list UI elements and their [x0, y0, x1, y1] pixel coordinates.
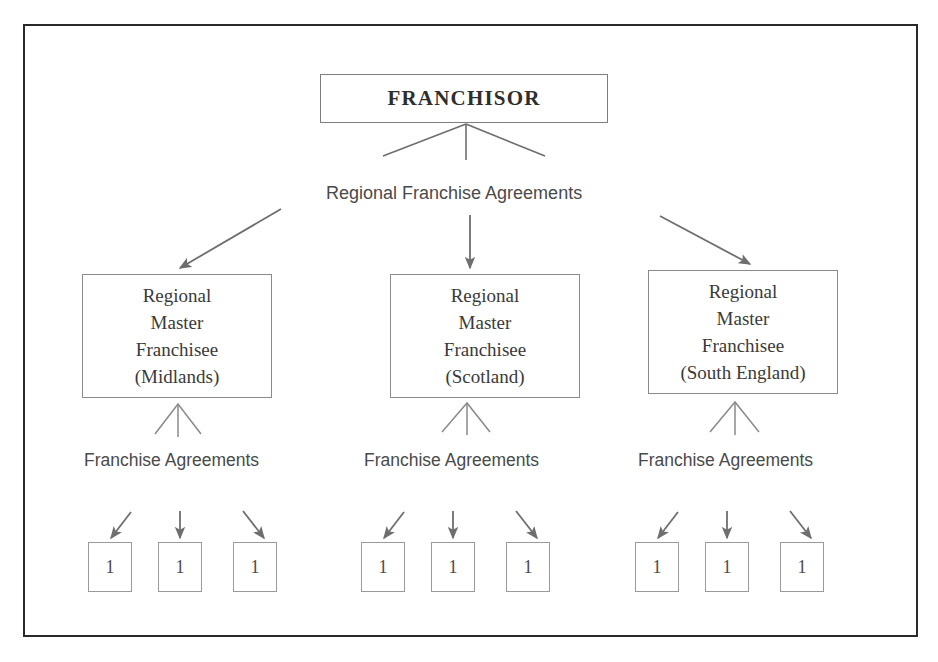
- node-unit-label: 1: [723, 557, 732, 578]
- node-unit-label: 1: [106, 557, 115, 578]
- node-unit-franchisee[interactable]: 1: [506, 542, 550, 592]
- node-regional-master-franchisee-midlands[interactable]: Regional Master Franchisee (Midlands): [82, 274, 272, 398]
- label-regional-franchise-agreements: Regional Franchise Agreements: [326, 183, 582, 204]
- node-unit-franchisee[interactable]: 1: [88, 542, 132, 592]
- node-unit-franchisee[interactable]: 1: [705, 542, 749, 592]
- node-regional-master-franchisee-scotland[interactable]: Regional Master Franchisee (Scotland): [390, 274, 580, 398]
- node-franchisor-label: FRANCHISOR: [387, 86, 540, 111]
- node-unit-label: 1: [251, 557, 260, 578]
- node-unit-franchisee[interactable]: 1: [361, 542, 405, 592]
- label-franchise-agreements-2: Franchise Agreements: [638, 450, 813, 471]
- node-unit-label: 1: [449, 557, 458, 578]
- node-unit-franchisee[interactable]: 1: [780, 542, 824, 592]
- node-unit-label: 1: [653, 557, 662, 578]
- node-unit-franchisee[interactable]: 1: [431, 542, 475, 592]
- node-unit-franchisee[interactable]: 1: [635, 542, 679, 592]
- node-unit-franchisee[interactable]: 1: [233, 542, 277, 592]
- node-unit-label: 1: [379, 557, 388, 578]
- node-regional-label-0: Regional Master Franchisee (Midlands): [135, 282, 219, 390]
- node-unit-franchisee[interactable]: 1: [158, 542, 202, 592]
- node-regional-master-franchisee-south-england[interactable]: Regional Master Franchisee (South Englan…: [648, 270, 838, 394]
- node-unit-label: 1: [176, 557, 185, 578]
- node-franchisor[interactable]: FRANCHISOR: [320, 74, 608, 123]
- node-regional-label-1: Regional Master Franchisee (Scotland): [444, 282, 526, 390]
- node-unit-label: 1: [524, 557, 533, 578]
- node-regional-label-2: Regional Master Franchisee (South Englan…: [680, 278, 805, 386]
- label-franchise-agreements-0: Franchise Agreements: [84, 450, 259, 471]
- diagram-canvas: FRANCHISOR Regional Franchise Agreements…: [0, 0, 938, 662]
- label-franchise-agreements-1: Franchise Agreements: [364, 450, 539, 471]
- node-unit-label: 1: [798, 557, 807, 578]
